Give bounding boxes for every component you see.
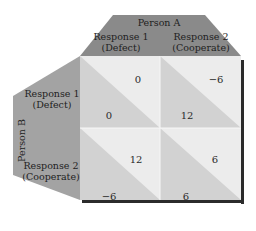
row-header-response-2-line1: Response 2	[20, 160, 82, 171]
column-header-response-1: Response 1 (Defect)	[90, 31, 152, 53]
row-header-response-1: Response 1 (Defect)	[24, 88, 80, 110]
payoff-a-defect-defect: 0	[126, 74, 150, 85]
column-header-response-2-line2: (Cooperate)	[166, 42, 236, 53]
column-player-label: Person A	[113, 17, 205, 28]
row-header-response-1-line2: (Defect)	[24, 99, 80, 110]
cell-cooperate-defect	[80, 128, 160, 200]
column-header-response-1-line2: (Defect)	[90, 42, 152, 53]
payoff-b-defect-defect: 0	[97, 110, 121, 121]
column-header-response-1-line1: Response 1	[90, 31, 152, 42]
payoff-b-defect-cooperate: 12	[175, 110, 199, 121]
row-header-response-2-line2: (Cooperate)	[20, 171, 82, 182]
row-header-response-1-line1: Response 1	[24, 88, 80, 99]
payoff-b-cooperate-cooperate: 6	[174, 191, 198, 202]
matrix-shadow-right	[241, 60, 244, 204]
column-header-response-2: Response 2 (Cooperate)	[166, 31, 236, 53]
payoff-matrix-diagram: Person A Response 1 (Defect) Response 2 …	[0, 0, 256, 231]
row-header-response-2: Response 2 (Cooperate)	[20, 160, 82, 182]
column-header-response-2-line1: Response 2	[166, 31, 236, 42]
payoff-a-defect-cooperate: −6	[204, 74, 228, 85]
row-player-label: Person B	[16, 116, 27, 166]
payoff-a-cooperate-cooperate: 6	[203, 154, 227, 165]
cell-cooperate-cooperate	[160, 128, 241, 200]
cell-defect-cooperate	[160, 56, 241, 128]
payoff-a-cooperate-defect: 12	[124, 154, 148, 165]
payoff-b-cooperate-defect: −6	[97, 191, 121, 202]
